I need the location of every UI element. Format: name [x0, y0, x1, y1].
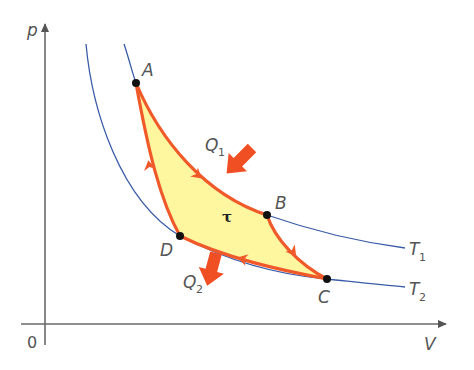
work-label: τ	[222, 208, 232, 226]
point-d-label: D	[160, 240, 173, 260]
q1-symbol: Q	[205, 135, 218, 155]
q2-label: Q 2	[183, 272, 203, 296]
t2-label: T 2	[409, 279, 426, 304]
origin-label: 0	[27, 333, 37, 352]
point-a-label: A	[141, 60, 154, 80]
axes	[21, 24, 446, 345]
point-b	[263, 211, 271, 219]
p-axis-label: p	[26, 20, 38, 40]
q1-subscript: 1	[218, 146, 225, 159]
carnot-cycle-diagram: p 0 V A B C D Q	[0, 0, 474, 370]
point-d	[176, 232, 184, 240]
point-b-label: B	[275, 193, 287, 213]
t1-label: T 1	[409, 239, 426, 264]
point-c	[323, 275, 331, 283]
q2-subscript: 2	[196, 283, 203, 296]
v-axis-label: V	[424, 334, 437, 354]
t2-subscript: 2	[419, 291, 426, 304]
q2-symbol: Q	[183, 272, 196, 292]
t1-subscript: 1	[419, 251, 426, 264]
q1-label: Q 1	[205, 135, 225, 159]
point-c-label: C	[318, 287, 330, 307]
point-a	[132, 79, 140, 87]
